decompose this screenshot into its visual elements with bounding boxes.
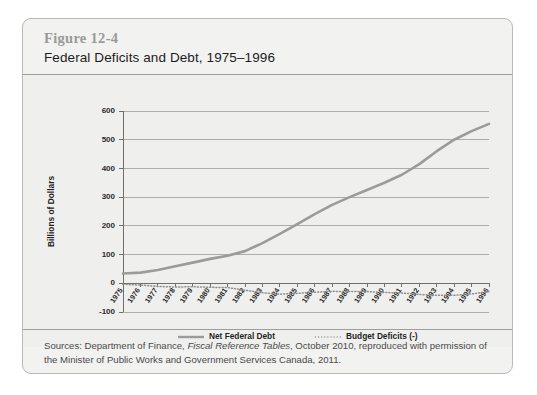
x-axis-tick-label: 1988 xyxy=(335,286,352,304)
x-axis-tick-label: 1989 xyxy=(352,286,369,304)
line-chart: -100010020030040050060019751976197719781… xyxy=(23,75,512,347)
x-axis-tick-label: 1975 xyxy=(108,286,125,304)
x-axis-tick-label: 1992 xyxy=(404,286,421,304)
y-axis-tick-label: 0 xyxy=(111,278,116,287)
x-axis-tick-label: 1995 xyxy=(457,286,474,304)
source-prefix: Sources: Department of Finance, xyxy=(44,340,187,351)
y-axis-title: Billions of Dollars xyxy=(46,176,56,248)
x-axis-tick-label: 1980 xyxy=(195,286,212,304)
x-axis-tick-label: 1986 xyxy=(300,286,317,304)
x-axis-tick-label: 1976 xyxy=(125,286,142,304)
x-axis-tick-label: 1985 xyxy=(282,286,299,304)
figure-header: Figure 12-4 Federal Deficits and Debt, 1… xyxy=(23,19,512,67)
figure-card: Figure 12-4 Federal Deficits and Debt, 1… xyxy=(22,18,513,374)
y-axis-tick-label: -100 xyxy=(99,307,116,316)
x-axis-tick-label: 1984 xyxy=(265,286,282,305)
series-line-1 xyxy=(123,124,489,274)
x-axis-tick-label: 1991 xyxy=(387,286,404,304)
chart-plot-region: -100010020030040050060019751976197719781… xyxy=(23,75,512,347)
x-axis-tick-label: 1978 xyxy=(160,286,177,304)
source-note: Sources: Department of Finance, Fiscal R… xyxy=(44,339,494,366)
y-axis-tick-label: 300 xyxy=(102,192,116,201)
x-axis-tick-label: 1987 xyxy=(317,286,334,304)
y-axis-tick-label: 500 xyxy=(102,135,116,144)
source-divider xyxy=(23,329,512,330)
y-axis-tick-label: 400 xyxy=(102,164,116,173)
x-axis-tick-label: 1990 xyxy=(369,286,386,304)
x-axis-tick-label: 1983 xyxy=(247,286,264,304)
figure-title: Federal Deficits and Debt, 1975–1996 xyxy=(44,48,512,67)
figure-number: Figure 12-4 xyxy=(44,30,512,47)
x-axis-tick-label: 1981 xyxy=(213,286,230,304)
x-axis-tick-label: 1979 xyxy=(178,286,195,304)
x-axis-tick-label: 1977 xyxy=(143,286,160,304)
y-axis-tick-label: 200 xyxy=(102,221,116,230)
y-axis-tick-label: 100 xyxy=(102,250,116,259)
x-axis-tick-label: 1996 xyxy=(474,286,491,304)
y-axis-tick-label: 600 xyxy=(102,106,116,115)
source-publication-title: Fiscal Reference Tables xyxy=(187,340,290,351)
